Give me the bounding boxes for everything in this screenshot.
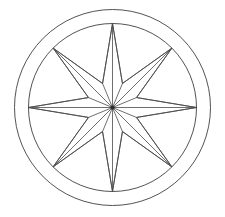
center-hub [110,105,114,109]
rosette-canvas: Compass Rose Rosette Eight-pointed compa… [0,0,225,217]
rosette-figure: Eight-pointed compass rose inside a doub… [0,0,225,217]
